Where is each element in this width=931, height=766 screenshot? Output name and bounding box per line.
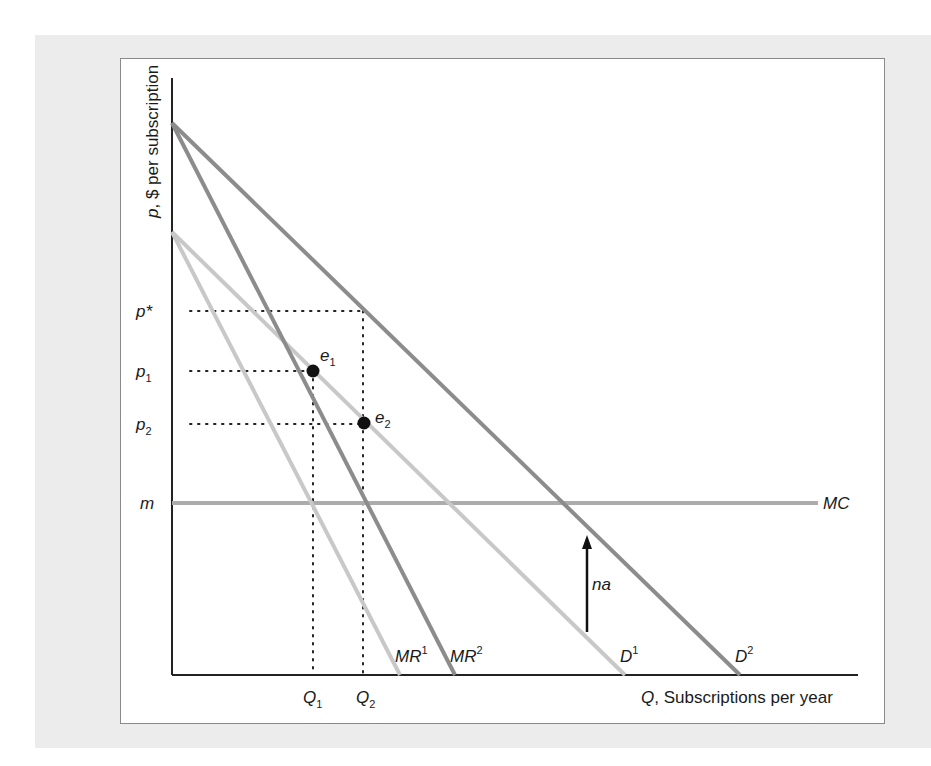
ytick-m: m — [140, 494, 154, 513]
point-e1 — [307, 365, 320, 378]
xtick-q1: Q1 — [303, 688, 322, 710]
label-e2: e2 — [375, 408, 391, 430]
ytick-p2: p2 — [135, 415, 152, 437]
label-mc: MC — [823, 494, 850, 513]
label-e1: e1 — [320, 346, 336, 368]
label-d2: D2 — [735, 644, 753, 666]
point-e2 — [358, 417, 371, 430]
x-axis-label: Q, Subscriptions per year — [641, 688, 833, 707]
ytick-p1: p1 — [135, 362, 152, 384]
ytick-p-star: p* — [135, 302, 153, 321]
label-mr1: MR1 — [395, 644, 428, 666]
mr2-line — [172, 123, 455, 675]
na-arrow-head-icon — [582, 535, 592, 549]
d1-line — [172, 232, 625, 675]
chart-svg: p, $ per subscription p* p1 p2 m Q1 Q2 Q… — [0, 0, 931, 766]
label-d1: D1 — [620, 644, 638, 666]
label-mr2: MR2 — [450, 644, 483, 666]
label-na: na — [592, 575, 611, 594]
xtick-q2: Q2 — [356, 688, 375, 710]
y-axis-label: p, $ per subscription — [143, 65, 162, 219]
mr1-line — [172, 232, 400, 675]
dotted-guides — [190, 311, 363, 675]
